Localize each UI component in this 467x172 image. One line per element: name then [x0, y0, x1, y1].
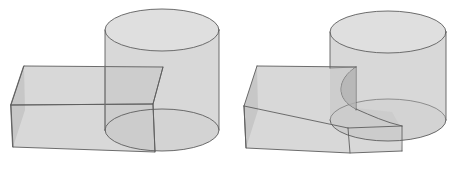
csg-boolean-illustration [0, 0, 467, 172]
left-panel-operands [11, 9, 219, 152]
box-front-face [11, 104, 155, 152]
box-top-face [11, 66, 163, 105]
figure-root [0, 0, 467, 172]
right-panel-result [244, 11, 446, 153]
result-box-top-strip [348, 126, 402, 153]
